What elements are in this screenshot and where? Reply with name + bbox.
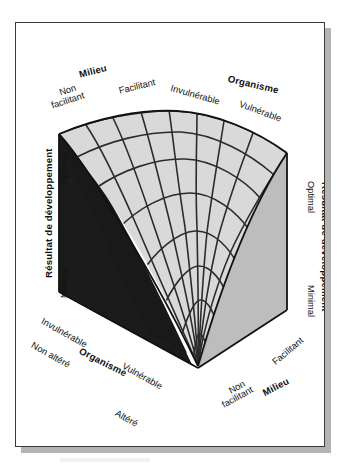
right-face-panel bbox=[198, 153, 287, 368]
tick-right-minimal: Minimal bbox=[305, 285, 315, 317]
surface-mesh-grid bbox=[59, 110, 287, 366]
tick-right-optimal: Optimal bbox=[305, 181, 315, 213]
tick-top-vulnerable: Vulnérable bbox=[238, 100, 283, 124]
left-face-panel bbox=[59, 134, 198, 368]
tick-bottom-invulnerable: Invulnérable bbox=[39, 317, 88, 350]
tick-left-minimal: Minimal bbox=[60, 266, 70, 298]
axis-title-bottom-organisme: Organisme bbox=[77, 346, 128, 378]
tick-bottom-vulnerable: Vulnérable bbox=[120, 362, 163, 392]
figure-root: Milieu Non facilitant Facilitant Organis… bbox=[0, 0, 348, 467]
figure-plate: Milieu Non facilitant Facilitant Organis… bbox=[15, 22, 325, 447]
tick-bottom-altere: Altéré bbox=[113, 409, 139, 429]
tick-left-optimal: Optimal bbox=[60, 153, 70, 185]
tick-bottom-facilitant: Facilitant bbox=[271, 336, 306, 367]
tick-top-invulnerable: Invulnérable bbox=[169, 84, 220, 107]
top-surface bbox=[59, 111, 287, 366]
axis-title-top-organisme: Organisme bbox=[227, 74, 280, 95]
caption-strip bbox=[60, 458, 150, 462]
axis-title-top-milieu: Milieu bbox=[78, 63, 108, 80]
solid-outline bbox=[59, 111, 287, 368]
tick-top-facilitant: Facilitant bbox=[118, 78, 156, 96]
tick-bottom-non-altere: Non altéré bbox=[29, 341, 71, 370]
axis-title-left-resultat: Résultat de développement bbox=[44, 148, 54, 278]
axis-title-bottom-milieu: Milieu bbox=[261, 376, 291, 398]
axis-title-right-resultat: Résultat de développement bbox=[320, 182, 325, 312]
